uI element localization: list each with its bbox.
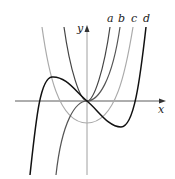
label-x: x bbox=[158, 103, 165, 116]
label-b: b bbox=[118, 12, 125, 25]
label-a: a bbox=[107, 12, 114, 25]
label-c: c bbox=[131, 12, 137, 25]
label-y: y bbox=[76, 22, 84, 35]
y-axis-arrow-icon bbox=[85, 25, 90, 32]
curve-c bbox=[42, 27, 133, 123]
label-d: d bbox=[143, 12, 150, 25]
function-graph: a b c d y x bbox=[0, 0, 175, 179]
